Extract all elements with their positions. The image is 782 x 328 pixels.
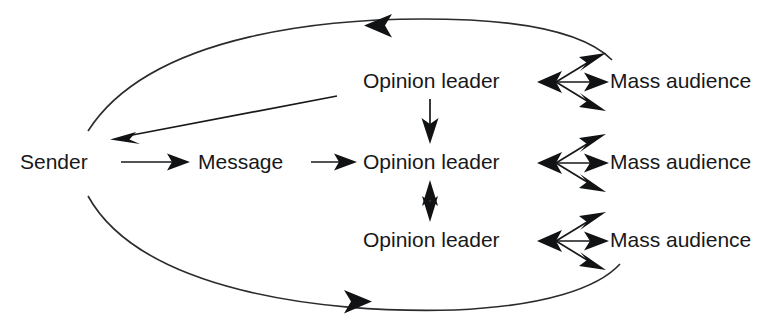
node-mass-audience-bottom: Mass audience (610, 228, 751, 251)
feedback-arc-bottom (88, 196, 620, 314)
fan-middle (537, 134, 609, 192)
fan-top (537, 53, 609, 111)
feedback-arc-top (88, 14, 612, 131)
arrow-opinion-leader-to-sender (110, 96, 337, 144)
node-sender: Sender (20, 150, 88, 173)
arrow-sender-to-message (121, 154, 190, 171)
fan-bottom (537, 212, 609, 270)
node-opinion-leader-middle: Opinion leader (363, 150, 500, 173)
node-opinion-leader-top: Opinion leader (363, 69, 500, 92)
node-mass-audience-top: Mass audience (610, 69, 751, 92)
node-mass-audience-middle: Mass audience (610, 150, 751, 173)
arrow-opinion-leader-top-to-middle (422, 99, 439, 144)
node-message: Message (198, 150, 283, 173)
two-step-flow-diagram: Sender Message Opinion leader Mass audie… (0, 0, 782, 328)
arrow-opinion-leader-middle-to-bottom (422, 180, 438, 222)
arrow-message-to-opinion-leader (311, 154, 357, 171)
node-opinion-leader-bottom: Opinion leader (363, 228, 500, 251)
